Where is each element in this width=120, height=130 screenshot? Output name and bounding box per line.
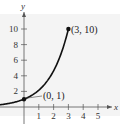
x-tick-label: 4 — [81, 111, 86, 121]
point-0-1 — [22, 97, 26, 101]
y-tick-label: 2 — [14, 86, 19, 96]
y-tick-label: 10 — [9, 24, 19, 34]
chart: xy12345246810 (0, 1)(3, 10) — [0, 0, 120, 130]
x-tick-label: 3 — [66, 111, 71, 121]
x-tick-label: 2 — [51, 111, 56, 121]
x-tick-label: 1 — [37, 111, 42, 121]
x-tick-label: 5 — [96, 111, 101, 121]
chart-svg: xy12345246810 (0, 1)(3, 10) — [0, 0, 120, 130]
x-axis-label: x — [113, 102, 118, 112]
point-label-0-1: (0, 1) — [43, 90, 65, 102]
point-3-10 — [66, 27, 70, 31]
y-axis-label: y — [20, 1, 25, 11]
point-label-3-10: (3, 10) — [71, 24, 98, 36]
y-tick-label: 4 — [14, 71, 19, 81]
y-tick-label: 6 — [14, 55, 19, 65]
y-tick-label: 8 — [14, 40, 19, 50]
